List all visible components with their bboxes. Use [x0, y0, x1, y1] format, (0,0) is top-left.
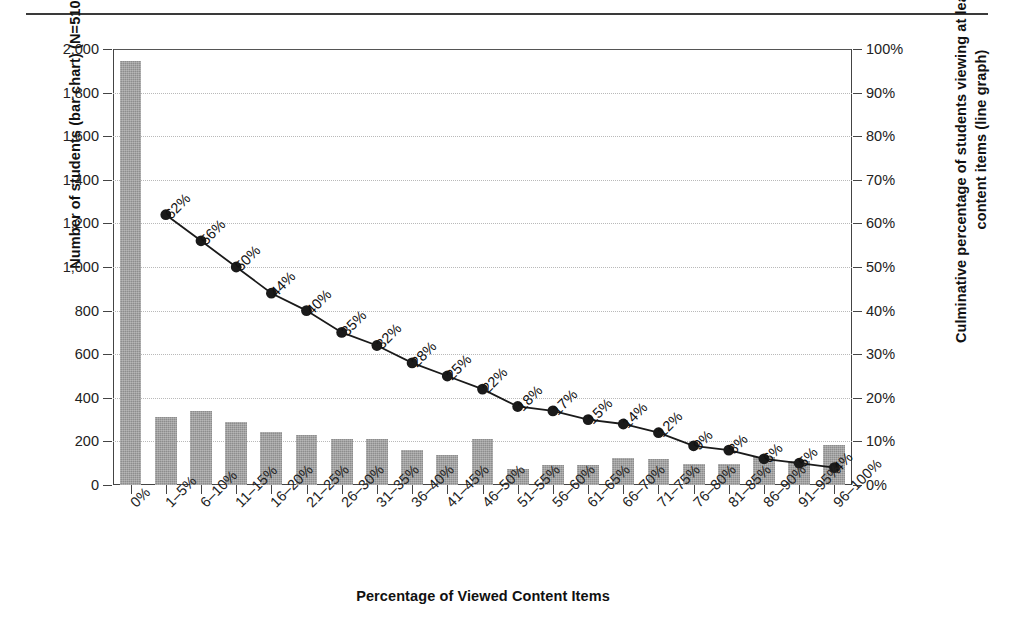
x-axis-title: Percentage of Viewed Content Items	[113, 588, 853, 604]
y-tick-left	[103, 49, 112, 50]
plot-area: 02004006008001,0001,2001,4001,6001,8002,…	[113, 49, 852, 485]
y-tick-right	[853, 49, 862, 50]
y-tick-left	[103, 441, 112, 442]
y-tick-right	[853, 267, 862, 268]
y-tick-label-right: 40%	[866, 303, 895, 319]
y-axis-right-title: Culminative percentage of students viewi…	[952, 0, 991, 365]
x-tick	[483, 485, 484, 494]
y-tick-left	[103, 354, 112, 355]
y-tick-label-right: 70%	[866, 172, 895, 188]
y-tick-label-right: 10%	[866, 433, 895, 449]
y-tick-left	[103, 136, 112, 137]
y-tick-left	[103, 93, 112, 94]
y-tick-left	[103, 485, 112, 486]
y-tick-label-left: 1,800	[63, 85, 99, 101]
y-tick-left	[103, 398, 112, 399]
y-tick-label-right: 60%	[866, 215, 895, 231]
y-tick-right	[853, 398, 862, 399]
y-tick-label-right: 30%	[866, 346, 895, 362]
y-tick-left	[103, 180, 112, 181]
y-tick-right	[853, 311, 862, 312]
y-tick-label-right: 90%	[866, 85, 895, 101]
line-path	[166, 215, 835, 468]
y-tick-label-left: 400	[75, 390, 99, 406]
y-tick-label-right: 80%	[866, 128, 895, 144]
y-tick-label-left: 1,600	[63, 128, 99, 144]
y-tick-label-left: 1,400	[63, 172, 99, 188]
y-tick-right	[853, 180, 862, 181]
y-tick-label-left: 200	[75, 433, 99, 449]
y-tick-label-left: 0	[91, 477, 99, 493]
y-tick-label-right: 100%	[866, 41, 903, 57]
y-tick-right	[853, 93, 862, 94]
y-tick-right	[853, 441, 862, 442]
chart-figure: Number of students (bar chart) (N=5108) …	[0, 0, 1012, 629]
line-series	[113, 49, 852, 485]
y-tick-label-left: 1,200	[63, 215, 99, 231]
y-tick-right	[853, 223, 862, 224]
y-tick-label-right: 20%	[866, 390, 895, 406]
y-tick-label-left: 2,000	[63, 41, 99, 57]
y-tick-label-left: 800	[75, 303, 99, 319]
y-tick-left	[103, 267, 112, 268]
y-tick-right	[853, 354, 862, 355]
y-tick-label-left: 600	[75, 346, 99, 362]
y-tick-label-right: 50%	[866, 259, 895, 275]
y-tick-left	[103, 311, 112, 312]
y-tick-label-left: 1,000	[63, 259, 99, 275]
y-tick-left	[103, 223, 112, 224]
y-tick-right	[853, 136, 862, 137]
